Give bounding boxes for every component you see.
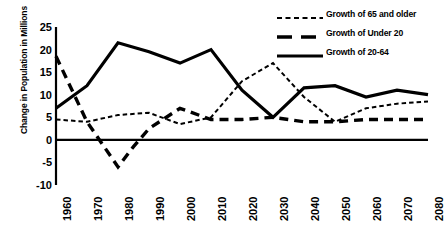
- legend-swatch-solid-icon: [276, 47, 324, 57]
- x-tick-label: 2030: [278, 197, 290, 221]
- x-tick-label: 2010: [216, 197, 228, 221]
- x-tick-label: 2060: [371, 197, 383, 221]
- legend-label-2: Growth of 20-64: [326, 47, 389, 57]
- legend-item-2[interactable]: Growth of 20-64: [276, 42, 442, 61]
- x-tick-label: 2070: [402, 197, 414, 221]
- x-tick-label: 2040: [309, 197, 321, 221]
- legend-label-1: Growth of Under 20: [326, 28, 403, 38]
- x-tick-label: 2020: [247, 197, 259, 221]
- legend-label-0: Growth of 65 and older: [326, 9, 416, 19]
- x-tick-label: 1980: [123, 197, 135, 221]
- x-tick-label: 1960: [61, 197, 73, 221]
- x-tick-label: 2050: [340, 197, 352, 221]
- legend-swatch-long-dashed-icon: [276, 28, 324, 38]
- x-tick-label: 1970: [92, 197, 104, 221]
- legend: Growth of 65 and older Growth of Under 2…: [276, 4, 442, 61]
- x-tick-label: 2000: [185, 197, 197, 221]
- legend-item-0[interactable]: Growth of 65 and older: [276, 4, 442, 23]
- x-tick-label: 2080: [433, 197, 445, 221]
- legend-swatch-fine-dashed-icon: [276, 9, 324, 19]
- x-tick-label: 1990: [154, 197, 166, 221]
- legend-item-1[interactable]: Growth of Under 20: [276, 23, 442, 42]
